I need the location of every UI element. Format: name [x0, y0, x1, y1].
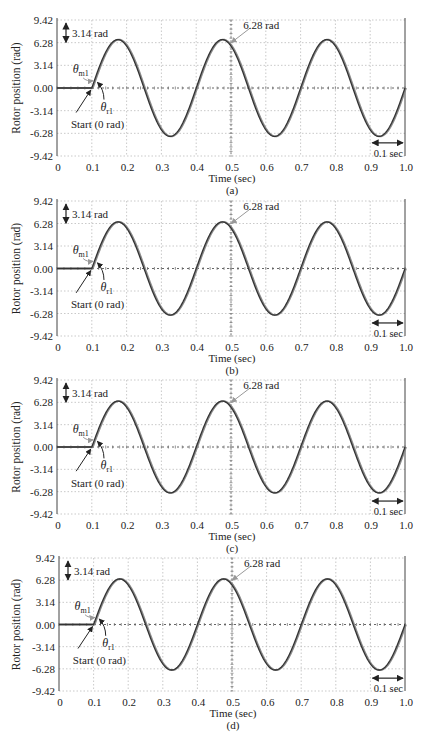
x-tick-label: 0.6	[261, 696, 275, 708]
peak-marker-label: 6.28 rad	[243, 379, 280, 391]
x-tick-label: 0.6	[260, 341, 274, 353]
panel-caption: (d)	[227, 719, 240, 732]
panel-b: 9.426.283.140.00-3.14-6.28-9.4200.10.20.…	[10, 195, 413, 377]
start-marker-label: Start (0 rad)	[71, 477, 124, 490]
y-tick-label: -6.28	[32, 663, 55, 675]
peak-marker-label: 6.28 rad	[243, 200, 280, 212]
theta-m1-arrow	[83, 78, 93, 81]
y-tick-label: 3.14	[36, 596, 56, 608]
panel-d: 9.426.283.140.00-3.14-6.28-9.4200.10.20.…	[10, 552, 413, 732]
theta-r1-label: θr1	[101, 458, 114, 474]
x-tick-label: 0.8	[330, 519, 344, 531]
theta-r1-arrow	[97, 263, 104, 280]
y-tick-label: -9.42	[30, 508, 53, 520]
x-tick-label: 0.8	[330, 696, 344, 708]
x-tick-label: 0.9	[364, 341, 378, 353]
x-tick-label: 1.0	[399, 161, 413, 173]
y-axis-label: Rotor position (rad)	[10, 401, 23, 493]
theta-m1-arrow	[83, 258, 93, 261]
theta-r1-label: θr1	[101, 280, 114, 296]
panel-caption: (a)	[226, 184, 239, 197]
amp-marker-label: 3.14 rad	[72, 208, 109, 220]
y-tick-label: 3.14	[34, 240, 54, 252]
y-tick-label: -9.42	[30, 330, 53, 342]
y-tick-label: -3.14	[30, 285, 53, 297]
x-tick-label: 0.1	[86, 161, 100, 173]
x-tick-label: 0.9	[365, 696, 379, 708]
x-tick-label: 0	[55, 519, 61, 531]
y-tick-label: 0.00	[34, 441, 54, 453]
theta-m1-label: θm1	[73, 243, 89, 259]
y-tick-label: 3.14	[34, 59, 54, 71]
x-tick-label: 0.7	[295, 161, 309, 173]
theta-r1-arrow	[97, 82, 104, 99]
y-tick-label: -3.14	[30, 105, 53, 117]
theta-m1-label: θm1	[73, 422, 89, 438]
x-tick-label: 1.0	[399, 696, 413, 708]
y-tick-label: 6.28	[34, 218, 54, 230]
start-marker-arrow	[76, 449, 91, 471]
period-marker-label: 0.1 sec	[374, 683, 403, 694]
x-tick-label: 0.4	[190, 161, 204, 173]
x-tick-label: 0.1	[86, 519, 100, 531]
x-tick-label: 0.6	[260, 161, 274, 173]
y-tick-label: 3.14	[34, 419, 54, 431]
y-tick-label: -6.28	[30, 308, 53, 320]
y-tick-label: 6.28	[36, 574, 56, 586]
x-tick-label: 0.9	[364, 519, 378, 531]
theta-r1-arrow	[99, 619, 106, 636]
y-tick-label: 0.00	[36, 619, 56, 631]
x-tick-label: 0.7	[295, 519, 309, 531]
x-tick-label: 0.4	[190, 519, 204, 531]
y-tick-label: -9.42	[32, 685, 55, 697]
y-tick-label: 6.28	[34, 37, 54, 49]
amp-marker-label: 3.14 rad	[74, 565, 111, 577]
y-tick-label: -6.28	[30, 127, 53, 139]
x-tick-label: 0.4	[192, 696, 206, 708]
panel-a: 9.426.283.140.00-3.14-6.28-9.4200.10.20.…	[10, 14, 413, 197]
x-tick-label: 0.7	[295, 341, 309, 353]
y-axis-label: Rotor position (rad)	[10, 42, 23, 134]
period-marker-label: 0.1 sec	[374, 328, 403, 339]
x-tick-label: 0	[55, 161, 61, 173]
x-tick-label: 0.7	[295, 696, 309, 708]
peak-marker-label: 6.28 rad	[243, 19, 280, 31]
period-marker-label: 0.1 sec	[374, 148, 403, 159]
theta-r1-label: θr1	[101, 100, 114, 116]
y-tick-label: 9.42	[34, 374, 53, 386]
x-tick-label: 0.9	[364, 161, 378, 173]
start-marker-arrow	[76, 90, 91, 113]
theta-m1-label: θm1	[75, 599, 91, 615]
x-tick-label: 0.1	[88, 696, 102, 708]
x-tick-label: 1.0	[399, 519, 413, 531]
start-marker-arrow	[78, 627, 93, 649]
x-tick-label: 0.8	[330, 341, 344, 353]
x-tick-label: 0.2	[121, 341, 135, 353]
x-tick-label: 1.0	[399, 341, 413, 353]
y-tick-label: -3.14	[30, 463, 53, 475]
x-tick-label: 0.2	[122, 696, 136, 708]
start-marker-label: Start (0 rad)	[73, 654, 126, 667]
x-tick-label: 0.3	[157, 696, 171, 708]
x-tick-label: 0.1	[86, 341, 100, 353]
amp-marker-label: 3.14 rad	[72, 27, 109, 39]
panel-c: 9.426.283.140.00-3.14-6.28-9.4200.10.20.…	[10, 374, 413, 555]
figure: 9.426.283.140.00-3.14-6.28-9.4200.10.20.…	[0, 0, 429, 738]
panel-caption: (c)	[226, 542, 239, 555]
y-axis-label: Rotor position (rad)	[10, 579, 23, 671]
y-tick-label: -3.14	[32, 641, 55, 653]
start-marker-label: Start (0 rad)	[71, 298, 124, 311]
theta-r1-arrow	[97, 441, 104, 458]
x-tick-label: 0.6	[260, 519, 274, 531]
y-tick-label: -9.42	[30, 150, 53, 162]
y-axis-label: Rotor position (rad)	[10, 223, 23, 315]
y-tick-label: 0.00	[34, 82, 54, 94]
y-tick-label: 9.42	[36, 552, 55, 564]
y-tick-label: 0.00	[34, 263, 54, 275]
y-tick-label: 9.42	[34, 195, 53, 207]
theta-r1-label: θr1	[102, 636, 115, 652]
start-marker-label: Start (0 rad)	[71, 118, 124, 131]
y-tick-label: 9.42	[34, 14, 53, 26]
x-tick-label: 0.8	[330, 161, 344, 173]
x-tick-label: 0.3	[156, 341, 170, 353]
